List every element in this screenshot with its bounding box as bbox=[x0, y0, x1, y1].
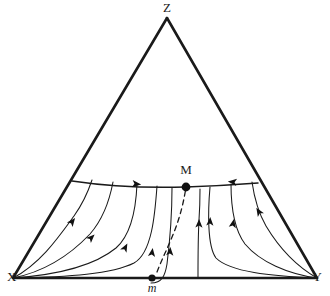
equilibrium-label-M: M bbox=[180, 162, 192, 177]
vertex-label-Y: Y bbox=[313, 269, 323, 284]
equilibrium-label-m: m bbox=[148, 281, 157, 295]
vertex-label-Z: Z bbox=[163, 0, 171, 15]
equilibrium-point-M bbox=[182, 183, 191, 192]
phase-portrait-figure: Mm ZXY bbox=[0, 0, 330, 296]
vertex-label-X: X bbox=[7, 269, 17, 284]
